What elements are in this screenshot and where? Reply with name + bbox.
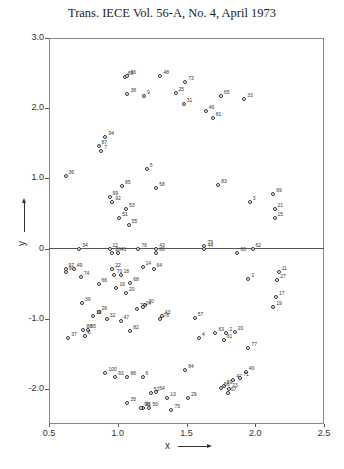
data-point-label: 49	[77, 262, 83, 268]
data-point-label: 16	[119, 281, 125, 287]
data-point-label: 65	[224, 89, 230, 95]
y-tick-label: 2.0	[8, 102, 44, 112]
data-point-label: 29	[191, 391, 197, 397]
data-point-label: 10	[96, 309, 102, 315]
data-point-label: 94	[108, 130, 114, 136]
y-axis-label: y	[16, 241, 27, 246]
data-point-marker	[64, 174, 68, 178]
data-point-label: 55	[132, 218, 138, 224]
y-tick-mark	[45, 389, 49, 390]
data-point-marker	[246, 346, 250, 350]
y-tick-mark	[45, 178, 49, 179]
data-point-label: 5	[150, 162, 153, 168]
data-point-marker	[139, 406, 143, 410]
y-tick-mark	[45, 38, 49, 39]
data-point-label: 86	[130, 370, 136, 376]
data-point-label: 25	[179, 86, 185, 92]
data-point-label: 37	[71, 331, 77, 337]
data-point-label: 51	[122, 211, 128, 217]
data-point-marker	[77, 247, 81, 251]
data-point-marker	[64, 270, 68, 274]
data-point-label: 100	[108, 366, 116, 372]
data-point-marker	[108, 195, 112, 199]
data-point-marker	[80, 301, 84, 305]
data-point-label: 27	[280, 273, 286, 279]
data-point-marker	[120, 184, 124, 188]
data-point-marker	[136, 247, 140, 251]
data-point-marker	[226, 391, 230, 395]
data-point-marker	[145, 167, 149, 171]
data-point-label: 61	[227, 333, 233, 339]
data-point-label: 53	[129, 202, 135, 208]
data-point-marker	[273, 216, 277, 220]
x-tick-mark	[324, 424, 325, 427]
data-point-marker	[274, 295, 278, 299]
data-point-marker	[113, 375, 117, 379]
data-point-label: 26	[102, 305, 108, 311]
data-point-marker	[271, 192, 275, 196]
data-point-label: 40	[249, 365, 255, 371]
data-point-label: 58	[159, 181, 165, 187]
data-point-marker	[83, 334, 87, 338]
data-point-marker	[154, 390, 158, 394]
y-tick-label: -1.0	[8, 313, 44, 323]
data-point-marker	[273, 207, 277, 211]
x-tick-label: 2.0	[240, 428, 270, 438]
data-point-marker	[119, 273, 123, 277]
data-point-label: 93	[118, 370, 124, 376]
x-tick-mark	[255, 424, 256, 427]
data-point-label: 39	[85, 296, 91, 302]
data-point-marker	[248, 200, 252, 204]
x-tick-mark	[187, 424, 188, 427]
data-point-label: 11	[282, 265, 287, 271]
data-point-label: 77	[251, 341, 257, 347]
data-point-label: 85	[125, 179, 131, 185]
data-point-label: 38	[130, 87, 136, 93]
x-tick-label: 1.0	[103, 428, 133, 438]
data-point-label: 24	[146, 300, 152, 306]
data-point-label: 73	[188, 75, 194, 81]
data-point-label: 75	[174, 403, 180, 409]
data-point-label: 32	[110, 312, 116, 318]
data-point-label: 15	[278, 211, 284, 217]
data-point-label: 2	[229, 326, 232, 332]
data-point-marker	[202, 247, 206, 251]
data-point-marker	[105, 317, 109, 321]
data-point-marker	[72, 267, 76, 271]
y-tick-mark	[45, 108, 49, 109]
data-point-marker	[149, 391, 153, 395]
data-point-label: 57	[198, 311, 204, 317]
data-point-marker	[124, 291, 128, 295]
data-point-marker	[128, 329, 132, 333]
data-point-marker	[127, 223, 131, 227]
data-point-label: 33	[247, 92, 253, 98]
data-point-marker	[219, 94, 223, 98]
data-point-marker	[152, 267, 156, 271]
data-point-label: 31	[187, 97, 193, 103]
data-point-label: 64	[157, 262, 163, 268]
data-point-label: 47	[124, 314, 130, 320]
x-axis-label: x	[165, 440, 170, 451]
data-point-label: 76	[141, 242, 147, 248]
y-tick-mark	[45, 319, 49, 320]
data-point-label: 95	[91, 323, 97, 329]
data-point-label: 34	[82, 242, 88, 248]
data-point-label: 21	[278, 202, 284, 208]
data-point-marker	[141, 375, 145, 379]
data-point-label: 18	[124, 268, 130, 274]
y-tick-label: -2.0	[8, 383, 44, 393]
data-point-marker	[135, 307, 139, 311]
data-point-marker	[119, 319, 123, 323]
data-point-label: 1	[251, 272, 254, 278]
data-point-label: 13	[170, 391, 176, 397]
x-tick-mark	[118, 424, 119, 427]
y-tick-label: 3.0	[8, 32, 44, 42]
data-point-marker	[251, 247, 255, 251]
data-point-label: 62	[256, 242, 262, 248]
data-point-label: 19	[276, 300, 282, 306]
data-point-marker	[97, 282, 101, 286]
data-point-marker	[154, 247, 158, 251]
data-point-label: 36	[69, 169, 75, 175]
data-point-label: 83	[221, 178, 227, 184]
data-point-label: 71	[243, 371, 249, 377]
